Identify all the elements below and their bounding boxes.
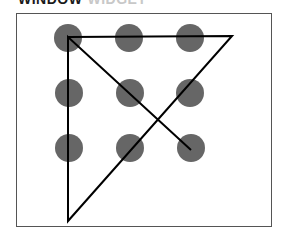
unlock-pattern bbox=[0, 0, 288, 248]
pattern-dot-3 bbox=[176, 24, 204, 52]
pattern-dot-8 bbox=[116, 134, 144, 162]
pattern-dot-9 bbox=[177, 134, 205, 162]
pattern-dot-2 bbox=[115, 24, 143, 52]
pattern-path bbox=[68, 36, 232, 221]
